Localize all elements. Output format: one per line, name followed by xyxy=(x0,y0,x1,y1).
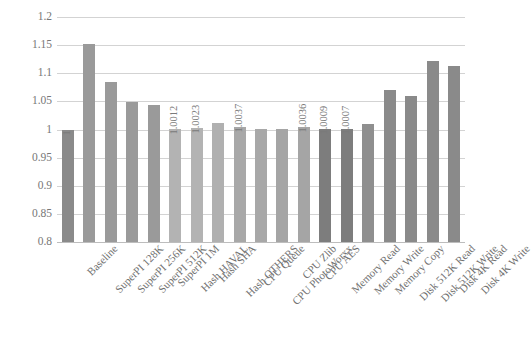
bar-value-label: 1.0009 xyxy=(319,106,330,135)
bar[interactable] xyxy=(405,96,417,242)
bar[interactable] xyxy=(384,90,396,242)
bar[interactable] xyxy=(341,129,353,242)
x-axis: BaselineSuperPI 128KSuperPI 256KSuperPI … xyxy=(57,243,487,352)
bar[interactable] xyxy=(191,128,203,242)
y-axis-tick-label: 0.8 xyxy=(38,236,52,248)
bar[interactable] xyxy=(212,123,224,242)
bar[interactable] xyxy=(276,129,288,242)
bar[interactable] xyxy=(126,102,138,242)
bar-value-label: 1.0012 xyxy=(169,105,180,134)
bar[interactable] xyxy=(83,44,95,242)
bar[interactable] xyxy=(448,66,460,242)
bar[interactable] xyxy=(105,82,117,242)
y-axis-tick-label: 0.95 xyxy=(32,152,52,164)
plot-area: 11.00121.00231.00371.00361.00091.0007 xyxy=(57,17,465,242)
y-axis-tick-label: 0.9 xyxy=(38,180,52,192)
bar-value-label: 1.0023 xyxy=(190,105,201,134)
y-axis-tick-label: 1.2 xyxy=(38,11,52,23)
bar[interactable] xyxy=(255,129,267,242)
bar[interactable] xyxy=(362,124,374,242)
bar-value-label: 1.0007 xyxy=(340,106,351,135)
y-axis-tick-label: 1.05 xyxy=(32,95,52,107)
bar[interactable] xyxy=(319,129,331,242)
y-axis-tick-label: 1 xyxy=(46,124,52,136)
y-axis-tick-label: 1.1 xyxy=(38,67,52,79)
y-axis-tick-label: 1.15 xyxy=(32,39,52,51)
gridline xyxy=(57,45,465,46)
bar-value-label: 1.0037 xyxy=(233,104,244,133)
bar-value-label: 1.0036 xyxy=(297,104,308,133)
bar[interactable] xyxy=(169,129,181,242)
y-axis-tick-label: 0.85 xyxy=(32,208,52,220)
gridline xyxy=(57,73,465,74)
y-axis: 1.21.151.11.0510.950.90.850.8 xyxy=(0,17,52,242)
bar[interactable] xyxy=(427,61,439,242)
gridline xyxy=(57,101,465,102)
bar[interactable] xyxy=(148,105,160,242)
bar[interactable] xyxy=(234,127,246,242)
bar[interactable] xyxy=(298,127,310,242)
gridline xyxy=(57,17,465,18)
bar[interactable] xyxy=(62,130,74,243)
x-axis-tick-label: Baseline xyxy=(85,243,120,278)
bar-value-label: 1 xyxy=(61,130,72,135)
